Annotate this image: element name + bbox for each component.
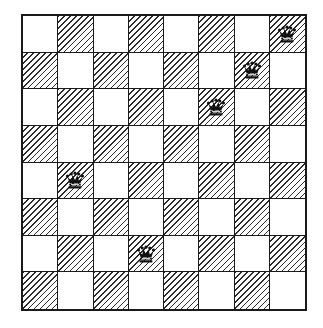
square-r1-c7 bbox=[270, 53, 305, 90]
square-r3-c1 bbox=[58, 126, 93, 163]
square-r3-c3 bbox=[129, 126, 164, 163]
square-r0-c3 bbox=[129, 16, 164, 53]
square-r5-c3 bbox=[129, 199, 164, 236]
square-r0-c1 bbox=[58, 16, 93, 53]
queen-icon bbox=[242, 61, 262, 79]
square-r3-c7 bbox=[270, 126, 305, 163]
square-r7-c0 bbox=[23, 272, 58, 309]
square-r5-c2 bbox=[94, 199, 129, 236]
queen-icon bbox=[65, 171, 85, 189]
square-r0-c2 bbox=[94, 16, 129, 53]
square-r2-c3 bbox=[129, 89, 164, 126]
queen-piece bbox=[65, 171, 85, 189]
square-r6-c7 bbox=[270, 236, 305, 273]
square-r6-c5 bbox=[199, 236, 234, 273]
square-r0-c5 bbox=[199, 16, 234, 53]
square-r1-c1 bbox=[58, 53, 93, 90]
square-r5-c1 bbox=[58, 199, 93, 236]
square-r3-c6 bbox=[235, 126, 270, 163]
square-r7-c1 bbox=[58, 272, 93, 309]
square-r0-c4 bbox=[164, 16, 199, 53]
square-r4-c7 bbox=[270, 163, 305, 200]
square-r5-c5 bbox=[199, 199, 234, 236]
square-r6-c4 bbox=[164, 236, 199, 273]
square-r1-c3 bbox=[129, 53, 164, 90]
square-r2-c0 bbox=[23, 89, 58, 126]
square-r1-c0 bbox=[23, 53, 58, 90]
square-r2-c1 bbox=[58, 89, 93, 126]
square-r4-c5 bbox=[199, 163, 234, 200]
square-r5-c4 bbox=[164, 199, 199, 236]
square-r6-c2 bbox=[94, 236, 129, 273]
square-r0-c7 bbox=[270, 16, 305, 53]
square-r4-c3 bbox=[129, 163, 164, 200]
queen-piece bbox=[136, 245, 156, 263]
square-r7-c3 bbox=[129, 272, 164, 309]
queen-icon bbox=[206, 98, 226, 116]
square-r5-c0 bbox=[23, 199, 58, 236]
queen-piece bbox=[242, 61, 262, 79]
square-r4-c0 bbox=[23, 163, 58, 200]
square-r4-c4 bbox=[164, 163, 199, 200]
square-r2-c6 bbox=[235, 89, 270, 126]
square-r3-c5 bbox=[199, 126, 234, 163]
square-r4-c6 bbox=[235, 163, 270, 200]
square-r2-c5 bbox=[199, 89, 234, 126]
square-r6-c0 bbox=[23, 236, 58, 273]
square-r2-c2 bbox=[94, 89, 129, 126]
square-r3-c0 bbox=[23, 126, 58, 163]
square-r1-c5 bbox=[199, 53, 234, 90]
square-r3-c2 bbox=[94, 126, 129, 163]
queen-icon bbox=[136, 245, 156, 263]
square-r7-c4 bbox=[164, 272, 199, 309]
square-r7-c2 bbox=[94, 272, 129, 309]
queen-icon bbox=[277, 25, 297, 43]
square-r1-c2 bbox=[94, 53, 129, 90]
square-r6-c6 bbox=[235, 236, 270, 273]
square-r0-c0 bbox=[23, 16, 58, 53]
chessboard bbox=[21, 14, 307, 311]
square-r1-c4 bbox=[164, 53, 199, 90]
square-r4-c2 bbox=[94, 163, 129, 200]
square-r6-c3 bbox=[129, 236, 164, 273]
square-r0-c6 bbox=[235, 16, 270, 53]
square-r6-c1 bbox=[58, 236, 93, 273]
square-r5-c6 bbox=[235, 199, 270, 236]
queen-piece bbox=[277, 25, 297, 43]
square-r4-c1 bbox=[58, 163, 93, 200]
square-r7-c6 bbox=[235, 272, 270, 309]
square-r1-c6 bbox=[235, 53, 270, 90]
queen-piece bbox=[206, 98, 226, 116]
square-r5-c7 bbox=[270, 199, 305, 236]
square-r2-c7 bbox=[270, 89, 305, 126]
square-r2-c4 bbox=[164, 89, 199, 126]
square-r7-c5 bbox=[199, 272, 234, 309]
square-r3-c4 bbox=[164, 126, 199, 163]
square-r7-c7 bbox=[270, 272, 305, 309]
